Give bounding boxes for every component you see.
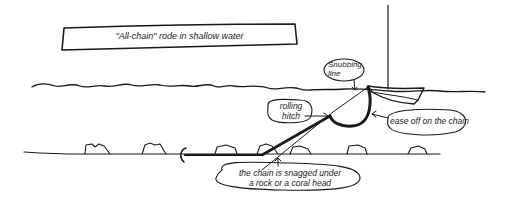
snubbing-line-label-1: Snubbing (328, 60, 362, 69)
boat-hull (368, 86, 424, 104)
snubbing-line-label: Snubbing line (328, 60, 362, 78)
snubbing-line-label-2: line (328, 69, 362, 78)
snagged-label: the chain is snagged under a rock or a c… (222, 168, 358, 188)
rocks (85, 143, 427, 154)
chain-slack (330, 87, 370, 126)
rolling-hitch-label-1: rolling (270, 101, 312, 111)
ease-off-label: ease off on the chain (390, 116, 468, 126)
rolling-hitch-label: rolling hitch (270, 101, 312, 121)
snagged-label-2: a rock or a coral head (222, 178, 358, 188)
seabed (24, 152, 440, 154)
snagged-label-1: the chain is snagged under (222, 168, 358, 178)
rolling-hitch-label-2: hitch (270, 111, 312, 121)
diagram-title: "All-chain" rode in shallow water (62, 31, 297, 41)
